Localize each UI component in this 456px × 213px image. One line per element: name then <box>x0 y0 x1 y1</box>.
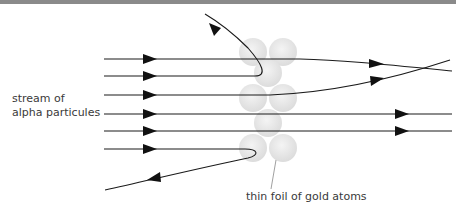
arrow-right-icon <box>395 109 409 119</box>
arrow-right-icon <box>395 126 409 136</box>
arrow-right-icon <box>143 71 157 81</box>
arrow-right-icon <box>143 144 157 154</box>
arrow-right-icon <box>143 54 157 64</box>
stream-label-line2: alpha particules <box>12 106 100 120</box>
rutherford-diagram: stream of alpha particules thin foil of … <box>0 0 456 213</box>
path-deflected-back <box>104 14 262 76</box>
foil-leader-line <box>271 160 276 189</box>
foil-label: thin foil of gold atoms <box>246 190 367 204</box>
stream-label-line1: stream of <box>12 92 100 106</box>
arrow-right-icon <box>143 109 157 119</box>
arrow-upleft-icon <box>209 23 221 36</box>
gold-atom <box>269 84 297 112</box>
path-reflected <box>104 149 256 190</box>
gold-atom <box>254 109 282 137</box>
gold-foil-atoms <box>239 38 297 162</box>
gold-atom <box>239 134 267 162</box>
arrow-right-icon <box>369 59 384 68</box>
gold-atom <box>239 84 267 112</box>
arrow-upright-icon <box>370 76 384 86</box>
stream-label: stream of alpha particules <box>12 92 100 120</box>
gold-atom <box>254 59 282 87</box>
arrow-right-icon <box>143 90 157 100</box>
arrow-right-icon <box>143 126 157 136</box>
gold-atom <box>269 134 297 162</box>
